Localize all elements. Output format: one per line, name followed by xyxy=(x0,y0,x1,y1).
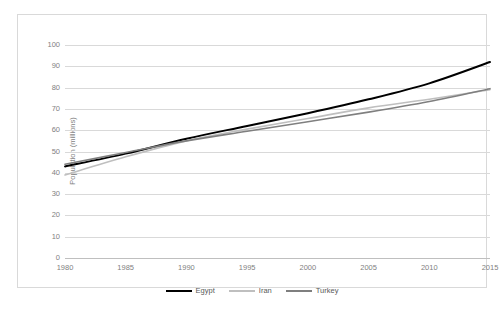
series-line-egypt xyxy=(65,62,490,166)
x-tick-label: 2000 xyxy=(300,264,317,272)
y-tick-label: 100 xyxy=(47,41,60,49)
x-tick-label: 1990 xyxy=(178,264,195,272)
y-tick-label: 80 xyxy=(52,84,60,92)
legend-label: Egypt xyxy=(196,287,215,295)
legend-label: Turkey xyxy=(316,287,339,295)
x-tick-label: 2005 xyxy=(360,264,377,272)
series-lines-group xyxy=(65,45,490,258)
chart-legend: EgyptIranTurkey xyxy=(18,287,486,295)
y-tick-label: 20 xyxy=(52,212,60,220)
legend-item-iran[interactable]: Iran xyxy=(229,287,272,295)
chart-container: Population (millions) 010203040506070809… xyxy=(17,14,487,288)
y-tick-label: 30 xyxy=(52,190,60,198)
y-tick-label: 50 xyxy=(52,148,60,156)
legend-label: Iran xyxy=(259,287,272,295)
legend-swatch-icon xyxy=(166,290,192,292)
plot-area: 0102030405060708090100 19801985199019952… xyxy=(65,45,490,258)
y-tick-label: 90 xyxy=(52,63,60,71)
y-tick-label: 70 xyxy=(52,105,60,113)
x-tick-label: 2010 xyxy=(421,264,438,272)
x-axis-line xyxy=(65,258,490,259)
chart-screenshot: Population (millions) 010203040506070809… xyxy=(0,0,504,311)
y-tick-label: 60 xyxy=(52,126,60,134)
x-tick-label: 1985 xyxy=(117,264,134,272)
x-tick-label: 1980 xyxy=(57,264,74,272)
legend-item-turkey[interactable]: Turkey xyxy=(286,287,339,295)
y-tick-label: 40 xyxy=(52,169,60,177)
y-tick-label: 0 xyxy=(56,254,60,262)
legend-item-egypt[interactable]: Egypt xyxy=(166,287,215,295)
x-tick-label: 1995 xyxy=(239,264,256,272)
y-tick-label: 10 xyxy=(52,233,60,241)
x-tick-label: 2015 xyxy=(482,264,499,272)
legend-swatch-icon xyxy=(229,290,255,292)
legend-swatch-icon xyxy=(286,290,312,292)
